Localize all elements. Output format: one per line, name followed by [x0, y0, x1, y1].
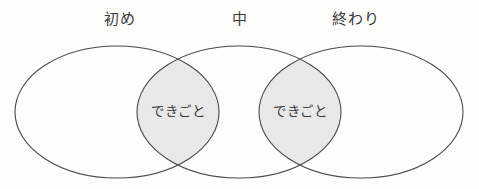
stage-label-end: 終わり	[332, 12, 380, 27]
left-overlap-label: できごと	[151, 105, 205, 119]
venn-diagram-canvas	[0, 0, 479, 189]
right-overlap-label: できごと	[273, 105, 327, 119]
stage-label-beginning: 初め	[104, 12, 136, 27]
stage-label-middle: 中	[232, 12, 248, 27]
venn-diagram: 初め 中 終わり できごと できごと	[0, 0, 479, 189]
